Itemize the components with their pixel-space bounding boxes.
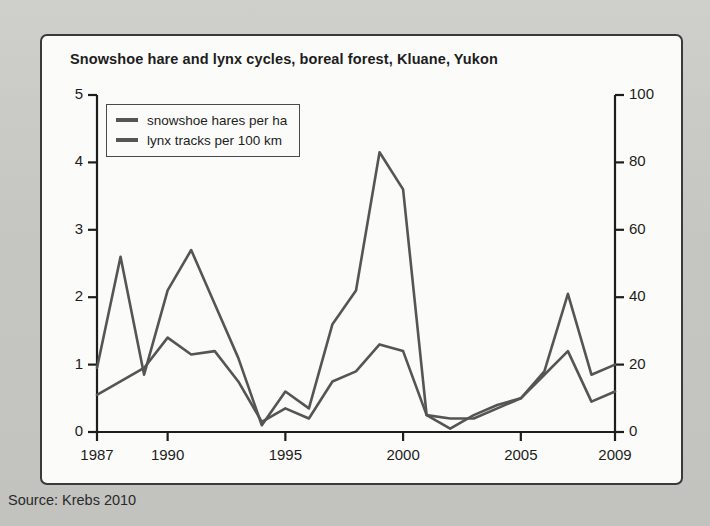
y-tick-label-left-5: 5 bbox=[53, 85, 83, 102]
y-tick-label-left-4: 4 bbox=[53, 152, 83, 169]
y-tick-label-left-3: 3 bbox=[53, 220, 83, 237]
y-tick-label-left-0: 0 bbox=[53, 422, 83, 439]
x-tick-label-2000: 2000 bbox=[373, 446, 433, 463]
legend: snowshoe hares per ha lynx tracks per 10… bbox=[106, 104, 300, 157]
series-paths bbox=[97, 152, 615, 428]
figure-panel: Snowshoe hare and lynx cycles, boreal fo… bbox=[40, 34, 683, 485]
y-tick-label-right-60: 60 bbox=[629, 220, 646, 237]
legend-swatch-hares-icon bbox=[116, 118, 138, 122]
legend-label-hares: snowshoe hares per ha bbox=[147, 113, 287, 128]
legend-item-lynx: lynx tracks per 100 km bbox=[116, 130, 287, 150]
y-tick-label-right-100: 100 bbox=[629, 85, 654, 102]
y-tick-label-left-2: 2 bbox=[53, 287, 83, 304]
legend-swatch-lynx-icon bbox=[116, 138, 138, 142]
y-tick-label-left-1: 1 bbox=[53, 355, 83, 372]
x-tick-label-2005: 2005 bbox=[491, 446, 551, 463]
legend-label-lynx: lynx tracks per 100 km bbox=[147, 133, 282, 148]
legend-item-hares: snowshoe hares per ha bbox=[116, 110, 287, 130]
x-tick-label-1990: 1990 bbox=[138, 446, 198, 463]
y-tick-label-right-0: 0 bbox=[629, 422, 637, 439]
x-tick-label-1995: 1995 bbox=[255, 446, 315, 463]
x-tick-label-1987: 1987 bbox=[67, 446, 127, 463]
source-note: Source: Krebs 2010 bbox=[8, 492, 136, 508]
page-background: Snowshoe hare and lynx cycles, boreal fo… bbox=[0, 0, 710, 526]
series-line-lynx bbox=[97, 152, 615, 428]
x-tick-label-2009: 2009 bbox=[585, 446, 645, 463]
y-tick-label-right-40: 40 bbox=[629, 287, 646, 304]
y-tick-label-right-80: 80 bbox=[629, 152, 646, 169]
y-tick-label-right-20: 20 bbox=[629, 355, 646, 372]
